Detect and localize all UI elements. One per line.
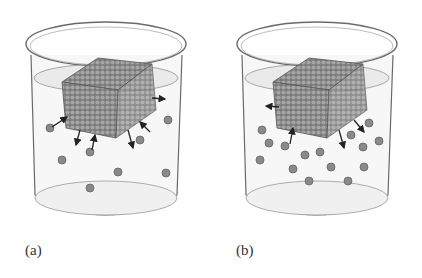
dissolved-particle (305, 177, 313, 185)
panel-label-a: (a) (25, 242, 42, 259)
dissolved-particle (289, 165, 297, 173)
panel-label-b: (b) (236, 242, 254, 259)
dissolved-particle (162, 169, 170, 177)
beaker-illustration-b (211, 0, 422, 278)
dissolved-particle (258, 126, 266, 134)
dissolved-particle (86, 184, 94, 192)
dissolved-particle (164, 116, 172, 124)
panel-a: (a) (0, 0, 211, 278)
dissolved-particle (136, 136, 144, 144)
dissolved-particle (114, 168, 122, 176)
dissolved-particle (327, 163, 335, 171)
dissolved-particle (256, 156, 264, 164)
dissolved-particle (365, 119, 373, 127)
dissolved-particle (301, 151, 309, 159)
panel-b: (b) (211, 0, 422, 278)
beaker-bottom (246, 181, 388, 215)
dissolved-particle (359, 143, 367, 151)
beaker-illustration-a (0, 0, 211, 278)
dissolved-particle (58, 156, 66, 164)
dissolved-particle (316, 148, 324, 156)
dissolved-particle (265, 139, 273, 147)
dissolved-particle (344, 177, 352, 185)
dissolved-particle (46, 124, 54, 132)
beaker-bottom (35, 181, 177, 215)
dissolved-particle (281, 142, 289, 150)
dissolved-particle (347, 131, 355, 139)
dissolved-particle (360, 163, 368, 171)
dissolved-particle (375, 137, 383, 145)
